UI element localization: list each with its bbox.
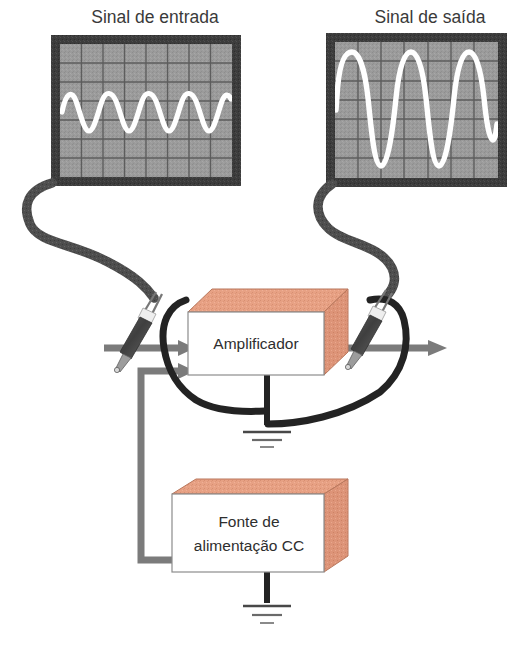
power-supply-front-face xyxy=(172,494,324,572)
input-probe xyxy=(114,292,162,373)
input-probe-cable xyxy=(27,183,154,298)
power-supply-side-face xyxy=(324,479,348,572)
output-probe-cable xyxy=(318,184,395,297)
amplifier-block-diagram: Sinal de entrada Sinal de saída xyxy=(0,0,519,651)
input-scope-title: Sinal de entrada xyxy=(91,7,219,27)
output-scope xyxy=(326,33,507,187)
power-supply-label-line1: Fonte de xyxy=(218,513,279,530)
power-supply-ground-symbol xyxy=(243,606,291,623)
input-scope xyxy=(51,35,241,186)
amplifier-ground-symbol xyxy=(243,432,291,447)
output-scope-title: Sinal de saída xyxy=(375,7,486,27)
power-supply-top-face xyxy=(172,479,348,494)
input-signal-arrow xyxy=(104,340,195,356)
amplifier-label: Amplificador xyxy=(213,335,298,352)
amplifier-top-face xyxy=(188,289,348,312)
power-supply-block: Fonte de alimentação CC xyxy=(172,479,348,572)
amplifier-block: Amplificador xyxy=(188,289,348,375)
figure-canvas: Sinal de entrada Sinal de saída xyxy=(0,0,519,651)
power-supply-label-line2: alimentação CC xyxy=(194,537,304,554)
